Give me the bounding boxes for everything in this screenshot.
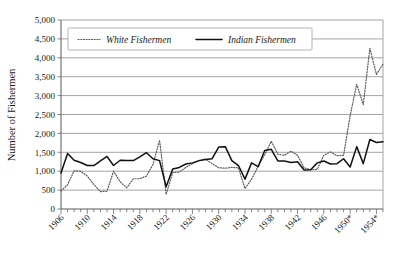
chart-legend: White Fishermen Indian Fishermen [68, 28, 312, 50]
y-axis-tick-label: 1,500 [35, 148, 56, 158]
x-axis-tick-label: 1926 [178, 212, 198, 232]
x-axis-tick-label: 1954* [358, 212, 381, 235]
legend-label-indian-fishermen: Indian Fishermen [227, 35, 296, 45]
x-axis-tick-label: 1950* [332, 212, 355, 235]
series-line-white-fishermen [61, 48, 383, 194]
y-axis-tick-label: 2,000 [35, 129, 56, 139]
y-axis-tick-label: 3,500 [35, 72, 56, 82]
y-tick-marks-group [58, 20, 62, 209]
y-axis-tick-label: 0 [51, 204, 56, 214]
x-axis-tick-label: 1930 [204, 212, 224, 232]
y-axis-tick-label: 1,000 [35, 166, 56, 176]
x-axis-tick-label: 1942 [283, 212, 303, 232]
x-axis-tick-label: 1934 [230, 212, 250, 232]
x-axis-tick-label: 1910 [72, 212, 92, 232]
y-axis-tick-label: 5,000 [35, 15, 56, 25]
x-axis-tick-label: 1918 [125, 212, 145, 232]
chart-canvas: 05001,0001,5002,0002,5003,0003,5004,0004… [0, 0, 405, 257]
legend-label-white-fishermen: White Fishermen [106, 35, 171, 45]
y-axis-tick-label: 2,500 [35, 110, 56, 120]
x-axis-tick-labels: 1906191019141918192219261930193419381942… [46, 212, 382, 235]
series-line-indian-fishermen [61, 139, 383, 186]
x-axis-tick-label: 1914 [99, 212, 119, 232]
y-axis-tick-label: 3,000 [35, 91, 56, 101]
y-axis-tick-label: 500 [42, 185, 56, 195]
y-axis-title: Number of Fishermen [6, 68, 17, 161]
y-axis-tick-label: 4,000 [35, 53, 56, 63]
x-axis-tick-label: 1906 [46, 212, 66, 232]
x-axis-tick-label: 1946 [309, 212, 329, 232]
y-axis-tick-labels: 05001,0001,5002,0002,5003,0003,5004,0004… [35, 15, 56, 214]
fishermen-line-chart: 05001,0001,5002,0002,5003,0003,5004,0004… [0, 0, 405, 257]
y-axis-tick-label: 4,500 [35, 34, 56, 44]
x-axis-tick-label: 1922 [151, 212, 171, 232]
x-axis-tick-label: 1938 [256, 212, 276, 232]
